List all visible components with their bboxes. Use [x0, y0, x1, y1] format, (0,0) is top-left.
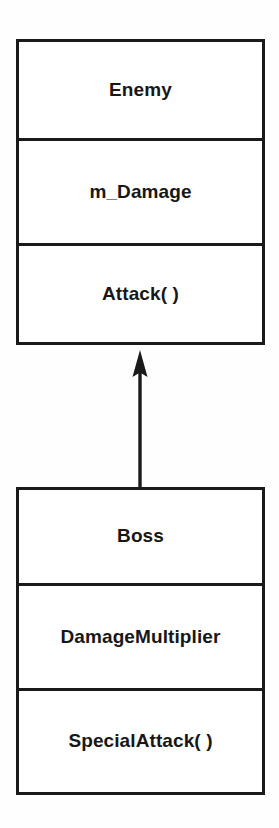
arrow-shape: [126, 348, 154, 490]
class-name-boss: Boss: [19, 490, 262, 583]
class-method-boss: SpecialAttack( ): [19, 688, 262, 792]
class-attribute-enemy: m_Damage: [19, 138, 262, 243]
class-name-enemy: Enemy: [19, 42, 262, 138]
class-method-enemy: Attack( ): [19, 243, 262, 342]
arrow-stem-line: [138, 372, 141, 490]
class-box-enemy[interactable]: Enemy m_Damage Attack( ): [16, 39, 265, 345]
class-attribute-boss: DamageMultiplier: [19, 583, 262, 688]
class-box-boss[interactable]: Boss DamageMultiplier SpecialAttack( ): [16, 487, 265, 795]
generalization-arrow-boss-to-enemy: [126, 348, 154, 490]
uml-class-diagram-canvas: Enemy m_Damage Attack( ) Boss DamageMult…: [0, 0, 279, 828]
